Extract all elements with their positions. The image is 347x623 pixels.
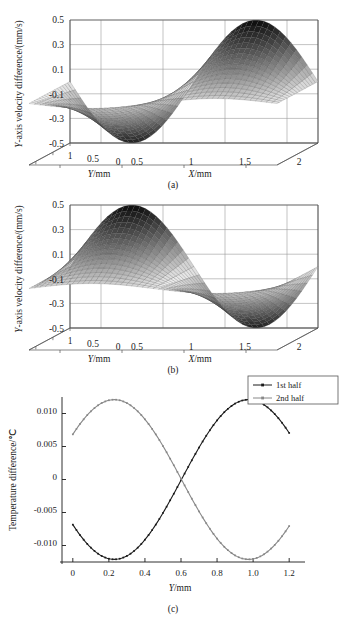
panel-b-xtick-1: 1 xyxy=(189,342,194,352)
panel-c-marker xyxy=(130,404,132,406)
panel-c-marker xyxy=(213,424,215,426)
panel-b-svg: 0.5 0.3 0.1 -0.1 -0.3 -0.5 1 0.5 0 0.5 1… xyxy=(0,185,347,375)
panel-b-ytick-0: 1 xyxy=(68,336,73,346)
panel-a-xtick-2: 1.5 xyxy=(239,157,251,167)
panel-b-ytick-1: 0.5 xyxy=(87,339,99,349)
panel-c-marker xyxy=(241,558,243,560)
panel-c-marker xyxy=(173,493,175,495)
panel-c-marker xyxy=(205,435,207,437)
panel-a-ytick-0: 1 xyxy=(68,151,73,161)
panel-c-marker xyxy=(122,557,124,559)
panel-c-marker xyxy=(133,407,135,409)
panel-c-marker xyxy=(104,401,106,403)
panel-c-marker xyxy=(238,556,240,558)
panel-c-marker xyxy=(90,410,92,412)
panel-c-marker xyxy=(162,445,164,447)
panel-c-marker xyxy=(234,403,236,405)
panel-c-xtick: 1.2 xyxy=(284,568,295,578)
panel-c-marker xyxy=(191,459,193,461)
panel-c-marker xyxy=(173,464,175,466)
panel-c-marker xyxy=(130,553,132,555)
panel-c-marker xyxy=(166,451,168,453)
panel-c-marker xyxy=(281,535,283,537)
panel-b-ztick-2: 0.1 xyxy=(52,250,64,260)
panel-c-marker xyxy=(223,546,225,548)
panel-c-marker xyxy=(144,418,146,420)
panel-c-marker xyxy=(76,428,78,430)
panel-c-marker xyxy=(159,518,161,520)
panel-b-ztick-1: 0.3 xyxy=(52,225,64,235)
panel-c-ytick-3: -0.005 xyxy=(34,505,58,515)
panel-c-marker xyxy=(270,410,272,412)
panel-c-marker xyxy=(288,525,290,527)
panel-c-marker xyxy=(259,556,261,558)
panel-c-marker xyxy=(245,399,247,401)
panel-c-ytick-1: 0.005 xyxy=(37,439,58,449)
panel-c-xtick: 0.2 xyxy=(103,568,114,578)
panel-c-marker xyxy=(140,414,142,416)
panel-c-x-axis-label: Y/mm xyxy=(169,583,192,593)
panel-c-marker xyxy=(223,411,225,413)
legend-label-1: 1st half xyxy=(276,380,301,390)
panel-a-ytick-1: 0.5 xyxy=(87,154,99,164)
panel-c-marker xyxy=(144,539,146,541)
panel-c-marker xyxy=(97,404,99,406)
panel-c-marker xyxy=(115,558,117,560)
panel-c-marker xyxy=(195,453,197,455)
panel-c-marker xyxy=(227,549,229,551)
panel-b-ztick-5: -0.5 xyxy=(49,324,64,334)
panel-c-marker xyxy=(285,427,287,429)
panel-a-y-axis-label: Y/mm xyxy=(88,169,111,179)
panel-c-svg: 1st half2nd half 0.010 0.005 0 -0.005 -0… xyxy=(0,372,347,623)
panel-c-y-axis-label: Temperature difference/℃ xyxy=(8,429,18,531)
panel-c-marker xyxy=(72,524,74,526)
panel-c-marker xyxy=(184,473,186,475)
panel-c-marker xyxy=(79,423,81,425)
panel-a-ztick-0: 0.5 xyxy=(52,15,64,25)
panel-c-marker xyxy=(209,429,211,431)
panel-c-marker xyxy=(112,399,114,401)
panel-a-z-axis-label: Y-axis velocity difference/(mm/s) xyxy=(14,20,25,148)
panel-c-marker xyxy=(231,405,233,407)
panel-c-marker xyxy=(263,553,265,555)
panel-c-marker xyxy=(94,550,96,552)
panel-c-marker xyxy=(126,555,128,557)
panel-b-surface-mesh xyxy=(29,205,318,328)
panel-c-marker xyxy=(202,517,204,519)
panel-c-marker xyxy=(119,558,121,560)
panel-c-marker xyxy=(133,550,135,552)
panel-c-marker xyxy=(155,524,157,526)
panel-b-x-axis-label: X/mm xyxy=(187,354,212,364)
panel-c-marker xyxy=(198,511,200,513)
panel-c-marker xyxy=(148,423,150,425)
panel-c-marker xyxy=(231,552,233,554)
panel-c-marker xyxy=(202,441,204,443)
panel-a-svg: 0.5 0.3 0.1 -0.1 -0.3 -0.5 1 0.5 0 0.5 1… xyxy=(0,0,347,190)
panel-c-xtick: 0.8 xyxy=(211,568,223,578)
panel-c-marker xyxy=(180,478,182,480)
panel-c-marker xyxy=(72,433,74,435)
panel-c-marker xyxy=(195,504,197,506)
panel-c-marker xyxy=(122,401,124,403)
panel-c-marker xyxy=(281,422,283,424)
panel-b-ztick-3: -0.1 xyxy=(49,275,64,285)
panel-c-marker xyxy=(151,428,153,430)
panel-a-surface-plot: 0.5 0.3 0.1 -0.1 -0.3 -0.5 1 0.5 0 0.5 1… xyxy=(0,0,347,190)
panel-c-marker xyxy=(274,413,276,415)
panel-c-xtick: 0 xyxy=(71,568,76,578)
panel-a-xtick-0: 0.5 xyxy=(131,157,143,167)
panel-c-marker xyxy=(238,401,240,403)
panel-b-y-axis-label: Y/mm xyxy=(88,354,111,364)
panel-c-marker xyxy=(140,543,142,545)
panel-c-marker xyxy=(227,408,229,410)
panel-c-marker xyxy=(267,406,269,408)
panel-c-marker xyxy=(126,402,128,404)
panel-c-marker xyxy=(245,558,247,560)
panel-c-labels: 0.010 0.005 0 -0.005 -0.010 Temperature … xyxy=(8,406,295,615)
panel-c-marker xyxy=(220,415,222,417)
panel-c-marker xyxy=(177,471,179,473)
panel-b-ztick-4: -0.3 xyxy=(49,299,64,309)
panel-c-marker xyxy=(216,420,218,422)
panel-c-marker xyxy=(108,399,110,401)
panel-c-marker xyxy=(187,491,189,493)
